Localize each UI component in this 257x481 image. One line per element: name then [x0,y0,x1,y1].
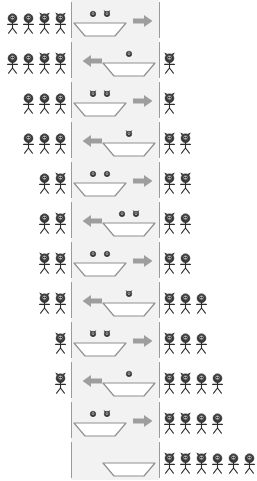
missionary-figure-icon [5,52,20,74]
right-bank-group [162,292,209,314]
boat-hull-icon [73,182,127,197]
boat [102,47,156,77]
state-row [0,240,236,280]
state-row [0,440,236,480]
right-bank-line [159,442,160,478]
cannibal-figure-icon [162,132,177,154]
boat [73,7,127,37]
cannibal-figure-icon [37,252,52,274]
missionary-figure-icon [210,372,225,394]
arrow-left-icon [82,134,102,148]
left-bank-group [53,372,68,394]
boat [73,407,127,437]
missionary-figure-icon [178,292,193,314]
left-bank-group [21,92,68,114]
left-bank-group [5,12,68,34]
cannibal-figure-icon [37,12,52,34]
missionary-figure-icon [178,332,193,354]
missionary-figure-icon [178,212,193,234]
cannibal-figure-icon [162,372,177,394]
missionary-figure-icon [194,372,209,394]
arrow-right-icon [133,254,153,268]
missionary-figure-icon [37,212,52,234]
missionary-figure-icon [21,52,36,74]
right-bank-group [162,132,193,154]
cannibal-figure-icon [194,452,209,474]
cannibal-figure-icon [37,52,52,74]
boat [102,287,156,317]
right-bank-line [159,362,160,398]
cannibal-figure-icon [53,212,68,234]
missionary-figure-icon [242,452,257,474]
boat [73,87,127,117]
left-bank-group [37,292,68,314]
left-bank-line [71,242,72,278]
cannibal-figure-icon [37,292,52,314]
boat-hull-icon [73,262,127,277]
right-bank-group [162,332,209,354]
state-row [0,360,236,400]
state-row [0,80,236,120]
right-bank-group [162,212,193,234]
cannibal-figure-icon [162,212,177,234]
boat-hull-icon [102,62,156,77]
left-bank-line [71,82,72,118]
arrow-right-icon [133,414,153,428]
missionary-figure-icon [21,92,36,114]
missionary-figure-icon [37,92,52,114]
right-bank-line [159,322,160,358]
missionary-figure-icon [37,132,52,154]
arrow-left-icon [82,374,102,388]
left-bank-group [5,52,68,74]
right-bank-line [159,2,160,38]
boat-hull-icon [73,342,127,357]
arrow-left-icon [82,54,102,68]
left-bank-line [71,162,72,198]
left-bank-line [71,322,72,358]
cannibal-figure-icon [53,52,68,74]
missionary-figure-icon [226,452,241,474]
cannibal-figure-icon [162,92,177,114]
cannibal-figure-icon [53,332,68,354]
left-bank-group [37,172,68,194]
right-bank-group [162,172,193,194]
boat-hull-icon [73,22,127,37]
right-bank-line [159,242,160,278]
cannibal-figure-icon [162,332,177,354]
cannibal-figure-icon [178,132,193,154]
right-bank-group [162,252,193,274]
boat-hull-icon [102,302,156,317]
boat [73,247,127,277]
cannibal-figure-icon [53,372,68,394]
state-row [0,120,236,160]
arrow-right-icon [133,174,153,188]
missionary-figure-icon [21,132,36,154]
boat-hull-icon [102,222,156,237]
boat [102,127,156,157]
right-bank-line [159,122,160,158]
cannibal-figure-icon [53,172,68,194]
right-bank-group [162,412,225,434]
missionary-figure-icon [194,412,209,434]
arrow-right-icon [133,334,153,348]
right-bank-line [159,162,160,198]
left-bank-line [71,2,72,38]
state-row [0,0,236,40]
boat-hull-icon [73,422,127,437]
state-row [0,40,236,80]
right-bank-group [162,92,177,114]
boat-hull-icon [102,462,156,477]
arrow-right-icon [133,14,153,28]
right-bank-line [159,202,160,238]
cannibal-figure-icon [162,172,177,194]
missionary-figure-icon [194,292,209,314]
cannibal-figure-icon [162,452,177,474]
missionary-figure-icon [5,12,20,34]
right-bank-line [159,82,160,118]
right-bank-group [162,52,177,74]
missionary-figure-icon [21,12,36,34]
left-bank-line [71,442,72,478]
boat [102,447,156,477]
missionary-figure-icon [53,132,68,154]
missionary-figure-icon [53,92,68,114]
